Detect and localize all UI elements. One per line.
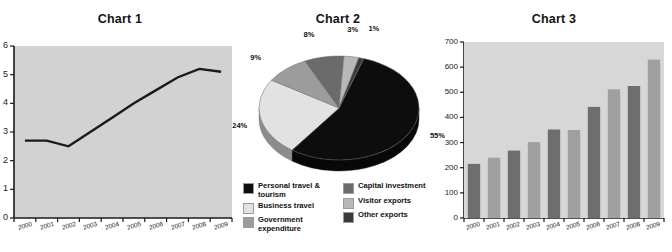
chart-3-bar	[528, 142, 540, 218]
chart-2-legend: Personal travel & tourismBusiness travel…	[243, 182, 435, 233]
chart-2-legend-label: Other exports	[358, 211, 408, 220]
chart-3-bar	[628, 86, 640, 218]
chart-2-title: Chart 2	[240, 12, 436, 26]
chart-2-legend-swatch	[343, 212, 354, 223]
chart-2-legend-swatch	[343, 183, 354, 194]
chart-1-y-tick-label: 0	[0, 212, 8, 222]
chart-3-bar	[608, 89, 620, 218]
chart-3-bar	[468, 164, 480, 218]
chart-2-data-label: 1%	[368, 24, 379, 33]
chart-2-legend-label: Business travel	[258, 202, 314, 211]
chart-3-bar	[648, 60, 660, 218]
chart-3-bar	[548, 130, 560, 219]
chart-1-y-tick-label: 5	[0, 69, 8, 79]
chart-3-panel: Chart 3 0100200300400500600700 200020012…	[436, 0, 672, 252]
chart-1-axes-and-line	[0, 0, 240, 252]
chart-2-panel: Chart 2 55%24%9%8%3%1% Personal travel &…	[240, 0, 436, 252]
chart-2-legend-swatch	[243, 217, 254, 228]
chart-3-title: Chart 3	[436, 12, 672, 26]
chart-1-y-tick-label: 6	[0, 40, 8, 50]
chart-3-bar	[488, 158, 500, 218]
chart-2-legend-swatch	[343, 198, 354, 209]
chart-2-legend-label: Government expenditure	[258, 216, 339, 233]
chart-3-plot-area	[464, 42, 664, 218]
chart-2-data-label: 3%	[347, 25, 358, 34]
chart-3-y-tick-label: 0	[436, 213, 458, 222]
chart-2-legend-swatch	[243, 203, 254, 214]
chart-2-legend-item: Visitor exports	[343, 197, 435, 209]
chart-2-pie-svg	[246, 50, 432, 172]
chart-3-bar	[568, 130, 580, 218]
chart-2-data-label: 8%	[304, 30, 315, 39]
chart-3-y-tick-label: 600	[436, 62, 458, 71]
chart-2-pie: 55%24%9%8%3%1%	[246, 50, 432, 172]
chart-2-data-label: 9%	[250, 53, 261, 62]
chart-2-legend-item: Other exports	[343, 211, 435, 223]
chart-2-legend-column-right: Capital investmentVisitor exportsOther e…	[343, 182, 435, 233]
chart-2-legend-swatch	[243, 183, 254, 194]
chart-2-legend-column-left: Personal travel & tourismBusiness travel…	[243, 182, 339, 233]
chart-3-y-tick-label: 200	[436, 163, 458, 172]
chart-2-legend-item: Capital investment	[343, 182, 435, 194]
chart-2-legend-item: Personal travel & tourism	[243, 182, 339, 199]
chart-2-data-label: 24%	[232, 121, 247, 130]
chart-3-y-tick-label: 700	[436, 37, 458, 46]
chart-1-y-tick-label: 4	[0, 97, 8, 107]
chart-1-panel: Chart 1 0123456 200020012002200320042005…	[0, 0, 240, 252]
chart-3-y-tick-label: 400	[436, 112, 458, 121]
chart-3-y-tick-label: 100	[436, 188, 458, 197]
chart-3-bar	[508, 151, 520, 218]
chart-3-y-tick-label: 300	[436, 138, 458, 147]
chart-3-bars	[464, 42, 664, 218]
chart-1-y-tick-label: 1	[0, 183, 8, 193]
chart-3-bar	[588, 107, 600, 218]
chart-2-legend-label: Capital investment	[358, 182, 426, 191]
charts-figure: Chart 1 0123456 200020012002200320042005…	[0, 0, 672, 252]
chart-2-legend-label: Personal travel & tourism	[258, 182, 339, 199]
chart-1-y-tick-label: 3	[0, 126, 8, 136]
chart-2-legend-item: Government expenditure	[243, 216, 339, 233]
chart-3-y-tick-label: 500	[436, 87, 458, 96]
chart-2-legend-item: Business travel	[243, 202, 339, 214]
chart-2-legend-label: Visitor exports	[358, 197, 411, 206]
chart-1-y-tick-label: 2	[0, 155, 8, 165]
